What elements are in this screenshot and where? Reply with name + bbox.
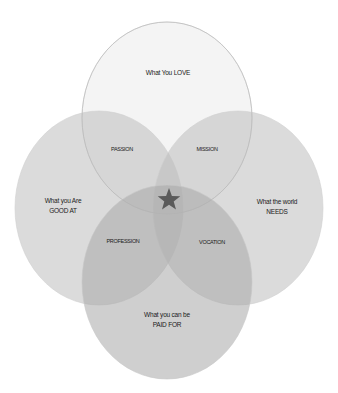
label-good-at-line1: What you Are — [45, 196, 82, 206]
label-love: What You LOVE — [146, 68, 190, 78]
label-love-line1: What You LOVE — [146, 68, 190, 78]
label-world-needs-line2: NEEDS — [257, 207, 298, 217]
label-world-needs-line1: What the world — [257, 197, 298, 207]
label-passion: PASSION — [111, 144, 133, 154]
label-good-at: What you Are GOOD AT — [45, 196, 82, 216]
label-paid-for: What you can be PAID FOR — [144, 310, 190, 330]
label-paid-for-line2: PAID FOR — [144, 320, 190, 330]
label-profession: PROFESSION — [106, 236, 139, 246]
label-world-needs: What the world NEEDS — [257, 197, 298, 217]
label-good-at-line2: GOOD AT — [45, 206, 82, 216]
label-vocation: VOCATION — [199, 237, 225, 247]
label-paid-for-line1: What you can be — [144, 310, 190, 320]
label-mission: MISSION — [196, 144, 217, 154]
